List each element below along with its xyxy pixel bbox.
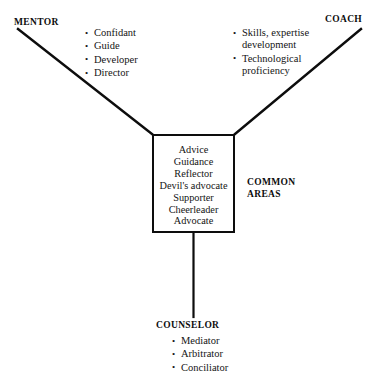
branch-label-counselor: COUNSELOR [156,320,219,330]
list-item: Supporter [156,192,231,204]
diagram-canvas: MENTOR Confidant Guide Developer Directo… [0,0,377,391]
branch-list-coach: Skills, expertise development Technologi… [233,27,333,78]
list-item: Technological proficiency [233,53,333,77]
list-item: Skills, expertise development [233,27,333,51]
list-item: Guidance [156,156,231,168]
branch-label-coach: COACH [325,14,362,24]
common-areas-list: Advice Guidance Reflector Devil's advoca… [154,136,233,227]
branch-list-counselor: Mediator Arbitrator Conciliator [172,335,282,375]
list-item: Guide [85,40,180,52]
list-item: Confidant [85,27,180,39]
common-areas-box: Advice Guidance Reflector Devil's advoca… [152,134,235,233]
branch-list-mentor: Confidant Guide Developer Director [85,27,180,81]
list-item: Reflector [156,168,231,180]
list-item: Director [85,67,180,79]
common-areas-label-line1: COMMON [247,177,296,189]
list-item: Arbitrator [172,348,282,360]
list-item: Mediator [172,335,282,347]
list-item: Cheerleader [156,204,231,216]
list-item: Devil's advocate [156,180,231,192]
branch-label-mentor: MENTOR [14,17,59,27]
common-areas-label: COMMON AREAS [247,177,296,200]
list-item: Advice [156,144,231,156]
common-areas-label-line2: AREAS [247,189,296,201]
list-item: Conciliator [172,362,282,374]
list-item: Developer [85,54,180,66]
list-item: Advocate [156,215,231,227]
